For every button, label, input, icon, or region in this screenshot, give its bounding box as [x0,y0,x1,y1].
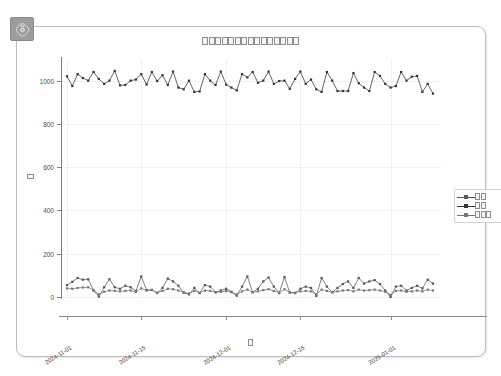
series-marker [183,88,185,90]
series-marker [161,74,163,76]
y-tick-label: 1000 [40,77,54,84]
y-tick-label: 400 [43,207,54,214]
series-marker [321,277,323,279]
x-tick [391,316,392,320]
series-marker [305,83,307,85]
series-marker [209,80,211,82]
series-marker [278,292,280,294]
series-marker [77,277,79,279]
series-marker [347,280,349,282]
series-marker [140,287,142,289]
series-marker [379,75,381,77]
series-marker [374,71,376,73]
series-marker [172,70,174,72]
series-marker [363,289,365,291]
series-marker [374,279,376,281]
series-marker [124,285,126,287]
plot-axes: 02004006008001000 2024-11-012024-11-1520… [61,59,441,297]
series-marker [177,289,179,291]
legend-item-0[interactable] [457,193,500,201]
series-marker [400,289,402,291]
series-marker [262,80,264,82]
series-marker [214,291,216,293]
series-marker [273,83,275,85]
series-marker [342,289,344,291]
y-tick-label: 200 [43,250,54,257]
screenshot-root: 02004006008001000 2024-11-012024-11-1520… [0,0,501,376]
series-marker [246,76,248,78]
series-marker [427,83,429,85]
series-marker [262,280,264,282]
series-marker [395,290,397,292]
series-marker [321,91,323,93]
series-marker [98,78,100,80]
series-marker [177,86,179,88]
series-marker [204,284,206,286]
series-marker [87,80,89,82]
series-marker [124,290,126,292]
series-marker [421,91,423,93]
series-marker [257,82,259,84]
series-marker [71,281,73,283]
x-tick [300,316,301,320]
chart-legend[interactable] [454,189,501,223]
series-series-low [66,286,434,296]
series-marker [283,80,285,82]
series-marker [283,276,285,278]
series-marker [246,275,248,277]
x-tick-label: 2024-11-01 [41,344,73,367]
series-marker [299,70,301,72]
series-marker [347,289,349,291]
series-marker [236,89,238,91]
series-marker [267,70,269,72]
series-marker [246,289,248,291]
series-marker [252,71,254,73]
series-marker [384,291,386,293]
series-marker [220,70,222,72]
series-marker [278,80,280,82]
series-marker [432,93,434,95]
series-marker [92,289,94,291]
series-marker [283,288,285,290]
series-marker [321,289,323,291]
series-marker [358,289,360,291]
series-marker [87,286,89,288]
series-marker [368,280,370,282]
series-marker [204,289,206,291]
x-tick-label: 2024-12-01 [200,344,232,367]
x-tick-label: 2024-11-15 [115,344,147,367]
series-marker [305,286,307,288]
series-marker [220,291,222,293]
series-marker [421,287,423,289]
series-marker [204,73,206,75]
series-marker [193,287,195,289]
series-marker [411,287,413,289]
series-marker [66,284,68,286]
openai-logo-icon[interactable] [10,17,34,41]
series-marker [405,291,407,293]
y-tick [57,297,62,298]
series-marker [230,291,232,293]
series-marker [432,289,434,291]
series-marker [108,278,110,280]
x-tick [141,316,142,320]
series-marker [140,73,142,75]
series-marker [151,289,153,291]
series-marker [384,83,386,85]
legend-swatch-icon [457,211,475,219]
series-marker [172,280,174,282]
x-axis-label [17,339,485,346]
series-marker [273,290,275,292]
series-marker [289,291,291,293]
series-line [67,287,433,295]
series-marker [167,84,169,86]
series-marker [103,83,105,85]
series-marker [427,279,429,281]
series-marker [241,286,243,288]
legend-item-2[interactable] [457,211,500,219]
legend-item-1[interactable] [457,202,500,210]
series-marker [140,275,142,277]
series-marker [427,289,429,291]
series-marker [209,290,211,292]
series-marker [299,288,301,290]
